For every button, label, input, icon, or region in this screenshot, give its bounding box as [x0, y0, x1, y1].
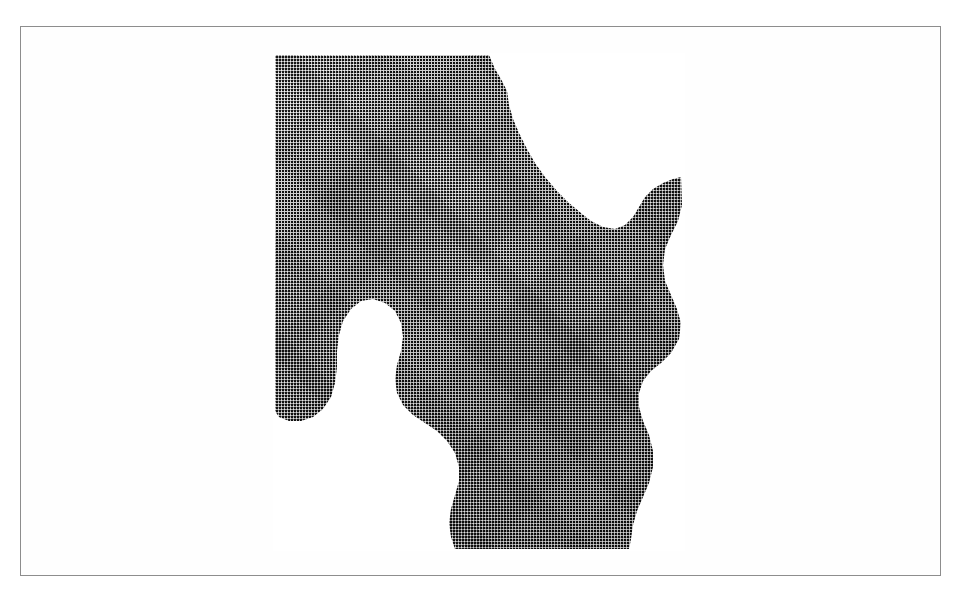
figure-page: [0, 0, 960, 598]
halftone-dot-layer: [273, 53, 685, 551]
figure-border: [20, 26, 941, 576]
halftone-photograph: [273, 53, 685, 551]
